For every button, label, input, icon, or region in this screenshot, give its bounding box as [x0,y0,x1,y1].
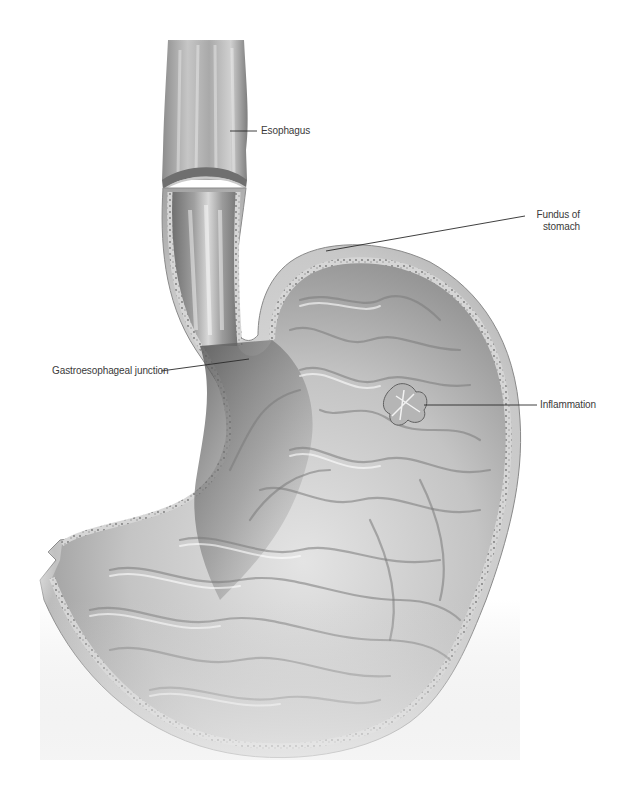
label-inflammation: Inflammation [540,399,596,411]
label-fundus: Fundus of stomach [530,209,580,233]
label-esophagus: Esophagus [261,125,310,137]
label-ge-junction: Gastroesophageal junction [52,365,168,377]
stomach-illustration [0,0,632,800]
esophagus [150,0,260,190]
label-fundus-line1: Fundus of [530,209,580,221]
esophagus-lumen [170,192,240,346]
fundus-leader-line [326,216,525,251]
stomach-cavity [20,260,520,760]
label-fundus-line2: stomach [530,221,580,233]
